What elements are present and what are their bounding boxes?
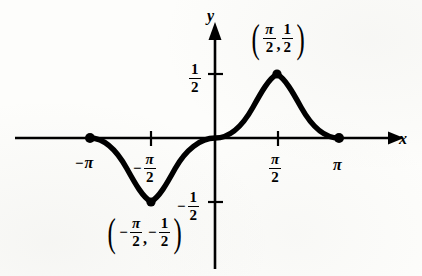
comma: ,	[143, 230, 147, 250]
y-axis-arrowhead	[209, 22, 222, 40]
x-tick-label-pi: π	[333, 157, 342, 173]
fraction-denominator: 2	[159, 233, 171, 249]
figure-canvas: y x −π − π 2 π 2 π 1 2 − 1 2 (	[0, 0, 422, 276]
fraction-numerator: 1	[282, 22, 294, 39]
fraction: π 2	[144, 152, 156, 186]
minus-sign-x: −	[119, 224, 128, 241]
fraction-numerator: 1	[159, 216, 171, 233]
fraction-numerator: π	[269, 152, 281, 169]
fraction-numerator: π	[144, 152, 156, 169]
plot-svg	[0, 0, 422, 276]
fraction-y: 1 2	[282, 22, 294, 56]
fraction-denominator: 2	[282, 39, 294, 55]
y-tick-label-half: 1 2	[189, 62, 201, 96]
comma: ,	[277, 36, 281, 56]
x-tick-label-half-pi: π 2	[269, 152, 281, 186]
fraction: 1 2	[188, 190, 200, 224]
point-right-zero	[334, 133, 344, 143]
fraction: π 2	[269, 152, 281, 186]
max-point-annotation: ( π 2 , 1 2 )	[249, 22, 307, 56]
y-axis-label: y	[207, 8, 214, 24]
x-tick-label-neg-pi: −π	[75, 155, 93, 171]
fraction-denominator: 2	[144, 169, 156, 185]
point-minimum	[146, 197, 155, 206]
pi-glyph: π	[85, 154, 94, 171]
fraction-numerator: 1	[189, 62, 201, 79]
fraction-denominator: 2	[130, 233, 142, 249]
x-axis-label: x	[399, 131, 407, 147]
fraction-x: π 2	[263, 22, 275, 56]
close-paren: )	[174, 217, 182, 248]
point-left-zero	[85, 133, 95, 143]
x-tick-label-neg-half-pi: − π 2	[133, 152, 156, 186]
min-point-annotation: ( − π 2 , − 1 2 )	[105, 216, 184, 250]
fraction: 1 2	[189, 62, 201, 96]
fraction-x: π 2	[130, 216, 142, 250]
minus-sign: −	[133, 161, 142, 176]
fraction-numerator: π	[263, 22, 275, 39]
fraction-denominator: 2	[263, 39, 275, 55]
open-paren: (	[108, 217, 116, 248]
fraction-numerator: π	[130, 216, 142, 233]
minus-sign-y: −	[148, 224, 157, 241]
fraction-denominator: 2	[188, 207, 200, 223]
fraction-y: 1 2	[159, 216, 171, 250]
minus-sign: −	[75, 155, 84, 171]
fraction-denominator: 2	[189, 79, 201, 95]
point-maximum	[272, 69, 281, 78]
fraction-numerator: 1	[188, 190, 200, 207]
open-paren: (	[252, 23, 260, 54]
fraction-denominator: 2	[269, 169, 281, 185]
close-paren: )	[297, 23, 305, 54]
